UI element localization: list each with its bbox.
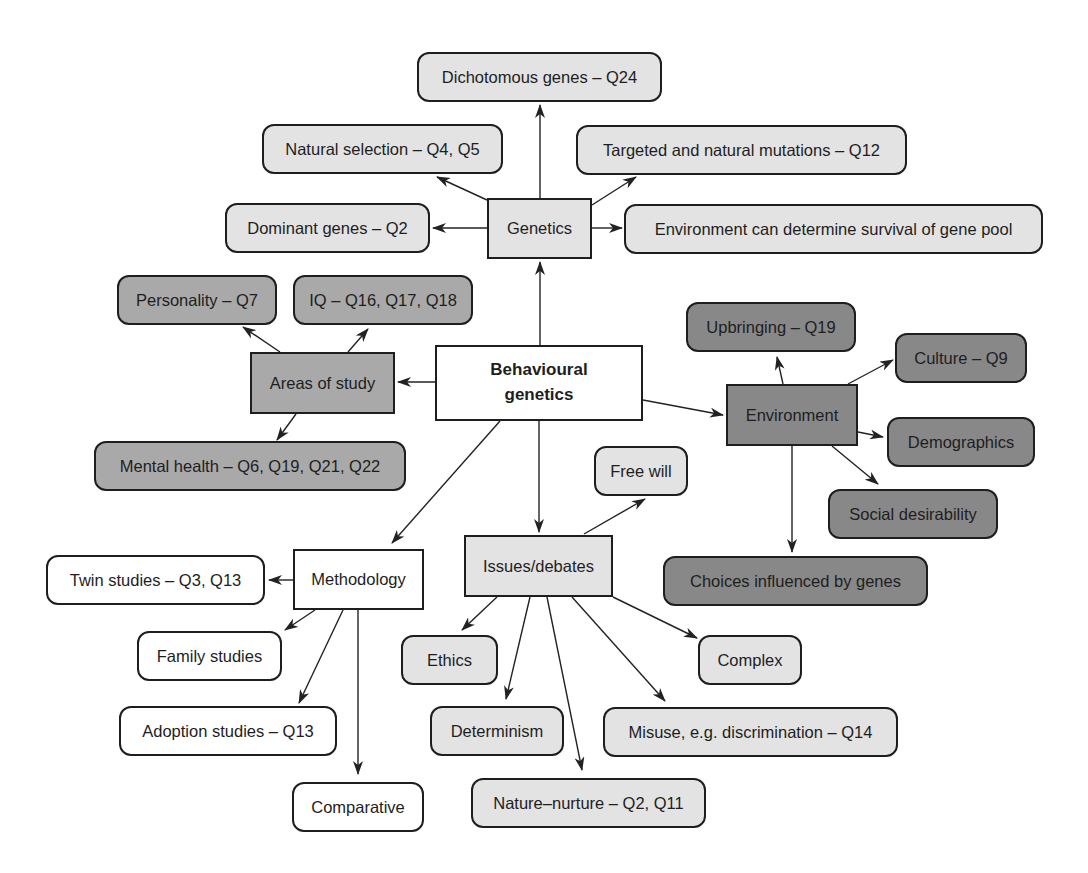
node-misuse: Misuse, e.g. discrimination – Q14 — [603, 707, 898, 757]
node-upbringing: Upbringing – Q19 — [686, 302, 856, 352]
node-free-will: Free will — [594, 446, 688, 496]
node-family-studies: Family studies — [137, 631, 282, 681]
node-mental-health: Mental health – Q6, Q19, Q21, Q22 — [94, 441, 406, 491]
node-dichotomous-genes: Dichotomous genes – Q24 — [417, 52, 662, 102]
edge-areas-mental-health — [277, 414, 296, 440]
edge-issues-determinism — [506, 597, 530, 699]
edge-methodology-family — [285, 610, 315, 630]
central-node-behavioural-genetics: Behavioural genetics — [435, 345, 643, 421]
edge-genetics-natural-selection — [437, 177, 487, 200]
node-targeted-mutations: Targeted and natural mutations – Q12 — [576, 125, 907, 175]
node-determinism: Determinism — [430, 706, 564, 756]
node-choices-influenced-by-genes: Choices influenced by genes — [663, 556, 928, 606]
node-environment: Environment — [726, 384, 858, 446]
node-nature-nurture: Nature–nurture – Q2, Q11 — [471, 778, 706, 828]
node-culture: Culture – Q9 — [895, 333, 1027, 383]
edge-environment-social — [832, 446, 878, 484]
edge-genetics-targeted — [592, 177, 636, 205]
node-complex: Complex — [698, 635, 802, 685]
edge-central-environment — [643, 400, 723, 415]
node-twin-studies: Twin studies – Q3, Q13 — [46, 555, 265, 605]
node-iq: IQ – Q16, Q17, Q18 — [293, 275, 473, 325]
edge-issues-free-will — [584, 499, 645, 534]
node-demographics: Demographics — [887, 417, 1035, 467]
edge-areas-personality — [243, 327, 280, 352]
node-comparative: Comparative — [292, 782, 424, 832]
edge-environment-culture — [848, 360, 893, 384]
node-genetics: Genetics — [487, 198, 592, 259]
node-social-desirability: Social desirability — [828, 489, 998, 539]
node-adoption-studies: Adoption studies – Q13 — [119, 706, 337, 756]
edge-environment-upbringing — [777, 357, 783, 384]
edge-methodology-adoption — [299, 610, 343, 703]
edge-issues-ethics — [462, 597, 497, 630]
node-dominant-genes: Dominant genes – Q2 — [225, 203, 430, 253]
node-natural-selection: Natural selection – Q4, Q5 — [262, 124, 503, 174]
edge-areas-iq — [348, 329, 368, 352]
central-label-line1: Behavioural — [490, 358, 587, 383]
concept-map-canvas: Behavioural genetics Genetics Dichotomou… — [0, 0, 1088, 873]
node-environment-gene-pool: Environment can determine survival of ge… — [624, 204, 1043, 254]
node-methodology: Methodology — [293, 549, 424, 610]
edge-issues-misuse — [572, 597, 665, 701]
node-areas-of-study: Areas of study — [250, 352, 395, 414]
central-label-line2: genetics — [505, 383, 574, 408]
node-personality: Personality – Q7 — [117, 275, 277, 325]
edge-central-methodology — [392, 421, 500, 543]
edge-environment-demographics — [858, 432, 883, 437]
node-ethics: Ethics — [401, 635, 498, 685]
node-issues-debates: Issues/debates — [464, 535, 613, 597]
